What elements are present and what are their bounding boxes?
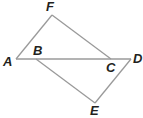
label-E: E (90, 103, 99, 118)
diagram-svg: F A B C D E (0, 0, 143, 118)
segment-BE (36, 59, 95, 103)
label-C: C (106, 60, 116, 75)
geometry-diagram: F A B C D E (0, 0, 143, 118)
label-B: B (33, 43, 42, 58)
label-D: D (133, 51, 143, 66)
label-F: F (46, 0, 55, 14)
label-A: A (2, 54, 12, 69)
segment-FC (52, 15, 111, 59)
